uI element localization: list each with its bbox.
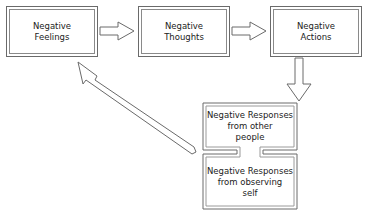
arrow-feelings-to-thoughts	[100, 22, 134, 40]
node-label: Negative Responses from other people	[207, 110, 293, 143]
node-label: Negative Thoughts	[164, 21, 204, 43]
node-label: Negative Actions	[297, 21, 335, 43]
node-responses-self: Negative Responses from observing self	[206, 158, 294, 206]
node-responses-others: Negative Responses from other people	[206, 106, 294, 147]
arrow-responses-to-feelings	[78, 62, 196, 154]
node-negative-feelings: Negative Feelings	[6, 6, 98, 57]
node-negative-thoughts: Negative Thoughts	[138, 6, 230, 57]
node-label: Negative Responses from observing self	[207, 166, 293, 199]
cycle-diagram: Negative Feelings Negative Thoughts Nega…	[0, 0, 366, 212]
node-negative-actions: Negative Actions	[270, 6, 362, 57]
node-label: Negative Feelings	[33, 21, 71, 43]
arrow-thoughts-to-actions	[232, 22, 266, 40]
